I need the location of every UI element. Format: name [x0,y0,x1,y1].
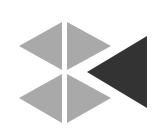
logo-icon [0,0,163,130]
logo [0,0,163,130]
